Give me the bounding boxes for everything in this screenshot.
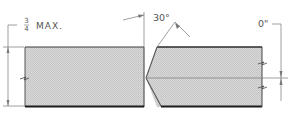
welding-joint-diagram: 3 4 MAX. 30° 0" <box>0 0 289 114</box>
arrow-left-icon <box>175 23 180 29</box>
bevel-angle-label: 30° <box>153 12 170 23</box>
thickness-dimension <box>3 25 24 106</box>
root-opening-label: 0" <box>258 18 268 29</box>
left-plate <box>20 47 144 107</box>
root-opening-dimension <box>272 24 283 101</box>
thickness-max-label: MAX. <box>36 21 63 31</box>
arrow-right-icon <box>138 15 144 19</box>
right-plate <box>146 47 267 107</box>
thickness-fraction-numerator: 3 <box>24 17 28 25</box>
arrow-down-icon <box>7 100 10 106</box>
arrow-up-icon <box>7 47 10 53</box>
thickness-fraction-denominator: 4 <box>24 25 29 33</box>
arrow-down-icon <box>280 71 283 78</box>
arrow-up-icon <box>280 78 283 85</box>
